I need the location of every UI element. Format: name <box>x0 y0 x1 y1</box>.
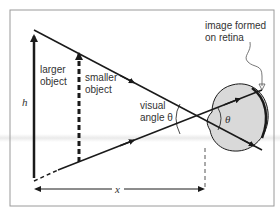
distance-arrow-left <box>34 186 41 192</box>
smaller-object-label-line2: object <box>85 84 112 95</box>
visual-angle-diagram: larger object smaller object visual angl… <box>0 0 280 213</box>
distance-arrow-right <box>198 186 205 192</box>
larger-object-label-line2: object <box>40 76 67 87</box>
retina-label-line2: on retina <box>205 32 244 43</box>
retina-label-line1: image formed <box>205 20 266 31</box>
visual-angle-label-line2: angle θ <box>140 112 173 123</box>
smaller-object-label-line1: smaller <box>85 72 118 83</box>
retina-callout-line <box>246 42 262 86</box>
height-label: h <box>22 96 28 108</box>
top-ray-arrow-mid <box>120 75 134 82</box>
bottom-ray-dashed <box>34 170 58 181</box>
inner-theta-label: θ <box>225 113 231 125</box>
bottom-ray-arrow-mid <box>120 140 134 146</box>
visual-angle-label-line1: visual <box>140 100 166 111</box>
visual-angle-arc <box>176 104 180 134</box>
distance-label: x <box>114 183 120 195</box>
larger-object-label-line1: larger <box>40 64 66 75</box>
